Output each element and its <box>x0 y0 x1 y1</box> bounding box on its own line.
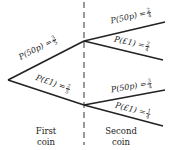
caption-first-coin: First coin <box>26 126 66 147</box>
probability-tree-diagram: P(50p) =35 P(£1) =25 P(50p) =24 P(£1) =2… <box>0 0 176 150</box>
caption-second-coin: Second coin <box>101 126 141 147</box>
